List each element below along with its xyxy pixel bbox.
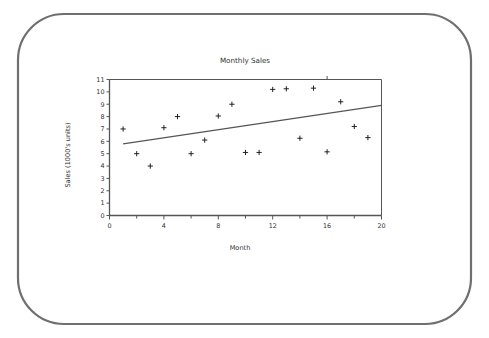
y-tick-label: 5 — [100, 150, 104, 158]
y-tick-label: 1 — [100, 199, 104, 207]
y-axis-label: Sales (1000's units) — [64, 122, 72, 187]
screen-root: Monthly Sales Month Sales (1000's units)… — [0, 0, 489, 338]
data-point — [161, 125, 166, 130]
data-point-series — [121, 86, 371, 169]
trend-line — [123, 105, 381, 143]
monthly-sales-chart: Monthly Sales Month Sales (1000's units)… — [0, 0, 489, 338]
data-point — [189, 151, 194, 156]
data-point — [216, 113, 221, 118]
y-tick-label: 0 — [100, 212, 104, 220]
x-tick-label: 8 — [216, 222, 220, 230]
y-tick-label: 10 — [96, 88, 104, 96]
data-point — [365, 135, 370, 140]
y-axis-ticks: 01234567891011 — [96, 76, 109, 220]
data-point — [338, 99, 343, 104]
x-tick-label: 16 — [323, 222, 331, 230]
x-axis-ticks: 048121620 — [107, 216, 385, 230]
data-point — [352, 124, 357, 129]
data-point — [297, 136, 302, 141]
y-tick-label: 7 — [100, 125, 104, 133]
chart-title: Monthly Sales — [220, 56, 270, 65]
data-point — [284, 86, 289, 91]
data-point — [202, 137, 207, 142]
data-point — [229, 102, 234, 107]
data-point — [243, 150, 248, 155]
y-tick-label: 3 — [100, 175, 104, 183]
data-point — [148, 163, 153, 168]
data-point — [175, 114, 180, 119]
y-tick-label: 6 — [100, 138, 104, 146]
data-point — [325, 149, 330, 154]
data-point — [134, 151, 139, 156]
data-point — [311, 86, 316, 91]
data-point — [257, 150, 262, 155]
data-point — [121, 126, 126, 131]
x-tick-label: 0 — [107, 222, 111, 230]
x-tick-label: 12 — [269, 222, 277, 230]
plot-frame — [110, 76, 382, 216]
trend-line-path — [123, 105, 381, 143]
y-tick-label: 11 — [96, 76, 104, 84]
y-tick-label: 2 — [100, 187, 104, 195]
y-tick-label: 9 — [100, 101, 104, 109]
x-tick-label: 20 — [377, 222, 385, 230]
data-point — [270, 87, 275, 92]
x-axis-label: Month — [230, 244, 251, 252]
y-tick-label: 8 — [100, 113, 104, 121]
y-tick-label: 4 — [100, 162, 104, 170]
x-tick-label: 4 — [162, 222, 166, 230]
